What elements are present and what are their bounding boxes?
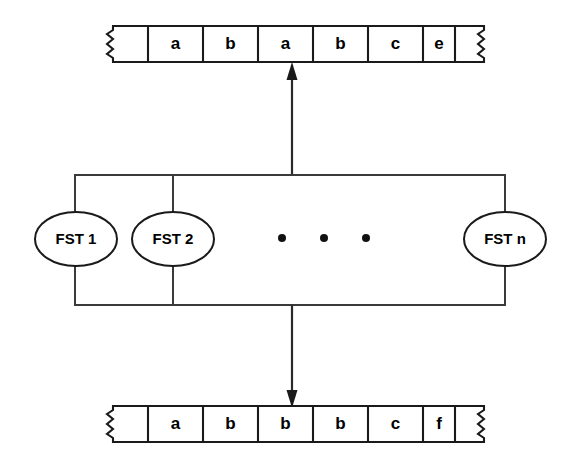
ellipsis-dot [320,234,328,242]
lower-tape-cell: b [335,414,345,433]
upper-tape: a b a b c e [107,26,484,62]
upper-tape-cell: c [391,34,400,53]
fst-cascade-diagram: a b a b c e FST 1 FST 2 FS [0,0,577,467]
lower-tape-body [107,406,484,442]
ellipsis-dot [362,234,370,242]
upper-tape-cell: e [434,34,443,53]
lower-tape-cell: a [171,414,181,433]
output-arrow-head [287,62,298,80]
lower-tape-cell: b [280,414,290,433]
lower-tape-cell: f [436,414,442,433]
lower-tape: a b b b c f [107,406,484,442]
diagram-canvas: a b a b c e FST 1 FST 2 FS [0,0,577,467]
fst-2[interactable]: FST 2 [132,212,214,266]
fst-n-label: FST n [484,230,526,247]
upper-tape-cell: a [171,34,181,53]
fst-2-label: FST 2 [153,230,194,247]
upper-tape-cell: b [225,34,235,53]
upper-tape-cell: a [281,34,291,53]
fst-1-label: FST 1 [56,230,97,247]
ellipsis-dot [278,234,286,242]
upper-tape-cell: b [335,34,345,53]
fst-n[interactable]: FST n [464,212,546,266]
fst-1[interactable]: FST 1 [35,212,117,266]
input-arrow-down [287,305,298,408]
ellipsis-dots [278,234,370,242]
lower-tape-cell: b [225,414,235,433]
upper-tape-body [107,26,484,62]
lower-tape-cell: c [391,414,400,433]
output-arrow-up [287,62,298,175]
